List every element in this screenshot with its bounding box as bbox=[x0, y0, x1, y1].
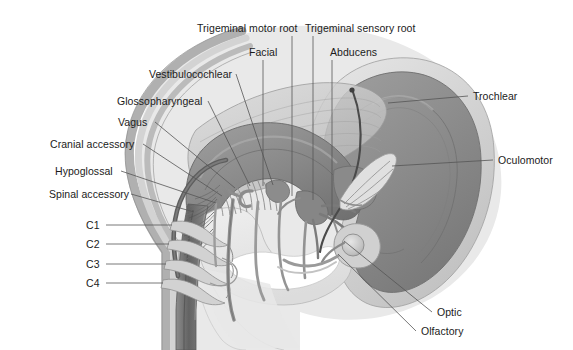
label-hypoglossal: Hypoglossal bbox=[55, 166, 113, 177]
label-c1: C1 bbox=[86, 220, 100, 231]
label-trigeminal-sensory-root: Trigeminal sensory root bbox=[305, 23, 415, 34]
label-facial: Facial bbox=[249, 47, 277, 58]
label-oculomotor: Oculomotor bbox=[498, 155, 553, 166]
label-trochlear: Trochlear bbox=[473, 91, 517, 102]
label-trigeminal-motor-root: Trigeminal motor root bbox=[197, 23, 297, 34]
label-c4: C4 bbox=[86, 278, 100, 289]
label-c2: C2 bbox=[86, 239, 100, 250]
label-glossopharyngeal: Glossopharyngeal bbox=[117, 96, 202, 107]
label-cranial-accessory: Cranial accessory bbox=[50, 139, 134, 150]
label-c3: C3 bbox=[86, 259, 100, 270]
figure-canvas: Trigeminal motor rootTrigeminal sensory … bbox=[0, 0, 573, 350]
label-olfactory: Olfactory bbox=[421, 326, 463, 337]
label-spinal-accessory: Spinal accessory bbox=[49, 189, 129, 200]
label-vestibulocochlear: Vestibulocochlear bbox=[149, 69, 232, 80]
label-vagus: Vagus bbox=[118, 117, 147, 128]
label-optic: Optic bbox=[437, 307, 462, 318]
label-abducens: Abducens bbox=[330, 47, 377, 58]
